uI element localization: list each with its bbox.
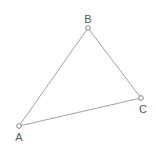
edge-c-a	[19, 98, 141, 126]
triangle-diagram: A B C	[0, 0, 156, 148]
vertex-a-label: A	[15, 131, 23, 143]
vertex-b-point	[86, 26, 91, 31]
edge-a-b	[19, 28, 88, 126]
vertex-c-point	[139, 96, 144, 101]
vertex-a-point	[17, 124, 22, 129]
vertex-b-label: B	[84, 13, 91, 25]
edge-b-c	[88, 28, 141, 98]
vertex-c-label: C	[139, 103, 147, 115]
